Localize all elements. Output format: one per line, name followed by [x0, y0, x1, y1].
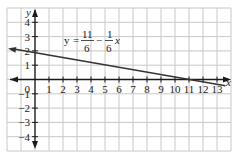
equation-numerator-1: 11: [82, 28, 93, 40]
series-arrow-left-icon: [8, 47, 16, 53]
equation-operator: −: [96, 34, 102, 46]
y-tick-label: −3: [18, 116, 30, 128]
equation-numerator-2: 1: [107, 28, 113, 40]
equation-denominator-1: 6: [84, 42, 90, 54]
y-tick-label: −4: [18, 131, 30, 143]
y-axis-arrow-up-icon: [32, 9, 38, 17]
y-axis-label: y: [25, 6, 31, 18]
y-tick-label: 3: [25, 31, 31, 43]
x-tick-label: 5: [102, 83, 108, 95]
x-tick-label: 8: [144, 83, 150, 95]
origin-label: 0: [25, 83, 31, 95]
axes: [10, 9, 231, 149]
equation-variable: x: [114, 34, 120, 46]
x-tick-label: 12: [198, 83, 209, 95]
equation-label: y = 11 6 − 1 6 x: [64, 28, 120, 54]
x-tick-label: 4: [88, 83, 94, 95]
equation-denominator-2: 6: [106, 42, 112, 54]
x-tick-label: 3: [74, 83, 80, 95]
x-tick-label: 2: [60, 83, 66, 95]
y-tick-label: 4: [25, 16, 31, 28]
x-axis-label: x: [225, 76, 231, 88]
x-axis-arrow-left-icon: [10, 77, 18, 83]
x-tick-label: 10: [170, 83, 182, 95]
y-axis-arrow-down-icon: [32, 141, 38, 149]
x-tick-labels: 12345678910111213: [46, 83, 223, 95]
y-tick-label: 1: [25, 59, 31, 71]
equation-equals: =: [73, 34, 79, 46]
x-tick-label: 11: [184, 83, 195, 95]
y-tick-label: −2: [18, 102, 30, 114]
x-tick-label: 6: [116, 83, 122, 95]
equation-lhs: y: [64, 34, 70, 46]
x-tick-label: 1: [46, 83, 52, 95]
x-tick-label: 9: [158, 83, 164, 95]
x-tick-label: 7: [130, 83, 136, 95]
line-graph: 12345678910111213 4321−1−2−3−4 0 y x y =…: [0, 0, 237, 157]
